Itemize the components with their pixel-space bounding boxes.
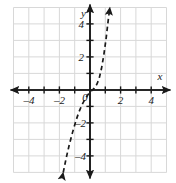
y-tick-label-neg4: –4 <box>74 150 87 162</box>
x-tick-label-neg2: –2 <box>53 94 66 106</box>
coordinate-plane-chart: –4 –2 2 4 4 2 –2 –4 0 y x <box>0 0 176 183</box>
x-tick-label-4: 4 <box>148 94 154 106</box>
y-axis-label: y <box>80 7 86 19</box>
x-tick-label-2: 2 <box>118 94 124 106</box>
y-tick-label-2: 2 <box>79 51 85 63</box>
x-axis-label: x <box>157 70 163 82</box>
y-tick-label-4: 4 <box>79 18 85 30</box>
x-tick-label-neg4: –4 <box>23 94 36 106</box>
chart-svg: –4 –2 2 4 4 2 –2 –4 0 y x <box>0 0 176 183</box>
